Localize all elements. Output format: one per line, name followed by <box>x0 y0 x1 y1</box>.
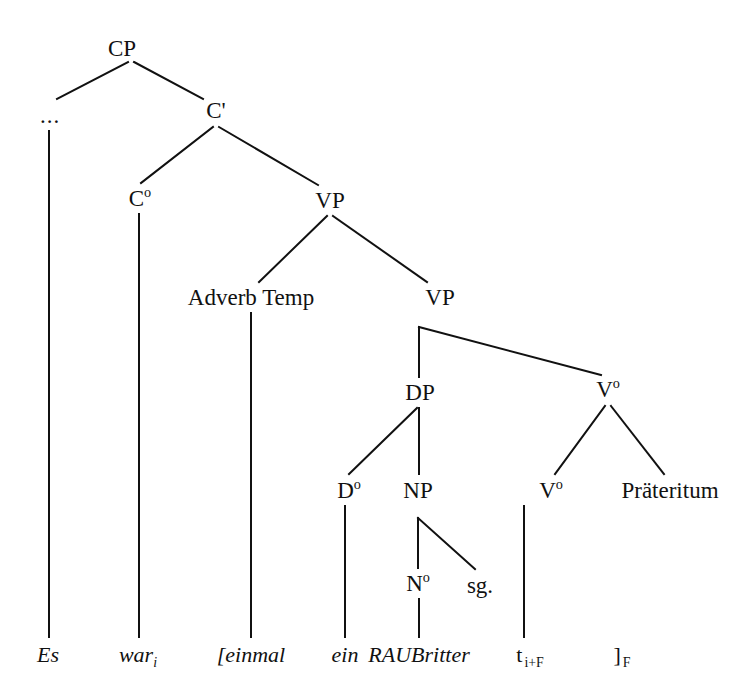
head-zero-superscript: o <box>144 184 151 200</box>
tree-node-v0up: Vo <box>596 378 620 401</box>
tree-node-label: V <box>539 478 556 503</box>
tree-nodes-layer: CP...C'CoVPAdverb TempVPDPVoDoNPVoPräter… <box>0 0 755 699</box>
tree-node-d0: Do <box>337 479 361 502</box>
index-subscript: i+F <box>522 655 543 670</box>
tree-node-label: CP <box>108 36 136 61</box>
tree-node-label: Präteritum <box>621 478 718 503</box>
tree-node-label: NP <box>403 478 432 503</box>
tree-node-np: NP <box>403 479 432 502</box>
tree-node-label: sg. <box>467 573 493 598</box>
tree-node-cp: CP <box>108 37 136 60</box>
terminal-label: [einmal <box>217 642 285 667</box>
tree-node-label: ... <box>40 103 60 128</box>
tree-node-praeteritum: Präteritum <box>621 479 718 502</box>
syntax-tree-figure: CP...C'CoVPAdverb TempVPDPVoDoNPVoPräter… <box>0 0 755 699</box>
tree-node-n0: No <box>406 572 430 595</box>
terminal-label: RAUBritter <box>368 642 469 667</box>
terminal-t_war: wari <box>119 644 157 666</box>
tree-node-label: N <box>406 571 423 596</box>
tree-node-dp: DP <box>405 381 434 404</box>
tree-node-advtemp: Adverb Temp <box>188 286 314 309</box>
tree-node-label: VP <box>315 188 344 213</box>
tree-node-c0: Co <box>129 187 151 210</box>
tree-node-label: C' <box>206 98 226 123</box>
terminal-t_ein: ein <box>332 644 359 666</box>
tree-node-cbar: C' <box>206 99 226 122</box>
terminal-t_bracket: ]F <box>613 644 630 666</box>
terminal-label: ein <box>332 642 359 667</box>
index-subscript: F <box>621 655 631 670</box>
terminal-t_es: Es <box>37 644 59 666</box>
terminal-label: war <box>119 642 153 667</box>
tree-node-label: C <box>129 186 144 211</box>
tree-node-v0low: Vo <box>539 479 563 502</box>
tree-node-label: DP <box>405 380 434 405</box>
terminal-t_einmal: [einmal <box>217 644 285 666</box>
index-subscript: i <box>153 655 157 670</box>
head-zero-superscript: o <box>354 476 361 492</box>
tree-node-label: D <box>337 478 354 503</box>
head-zero-superscript: o <box>556 476 563 492</box>
tree-node-label: V <box>596 377 613 402</box>
head-zero-superscript: o <box>423 569 430 585</box>
tree-node-label: VP <box>425 285 454 310</box>
tree-node-ellipsis: ... <box>40 104 60 127</box>
tree-node-vp2: VP <box>425 286 454 309</box>
head-zero-superscript: o <box>613 375 620 391</box>
tree-node-sg: sg. <box>467 574 493 597</box>
terminal-t_trace: ti+F <box>516 644 544 666</box>
tree-node-label: Adverb Temp <box>188 285 314 310</box>
terminal-t_raubritter: RAUBritter <box>368 644 469 666</box>
tree-node-vp1: VP <box>315 189 344 212</box>
terminal-label: Es <box>37 642 59 667</box>
